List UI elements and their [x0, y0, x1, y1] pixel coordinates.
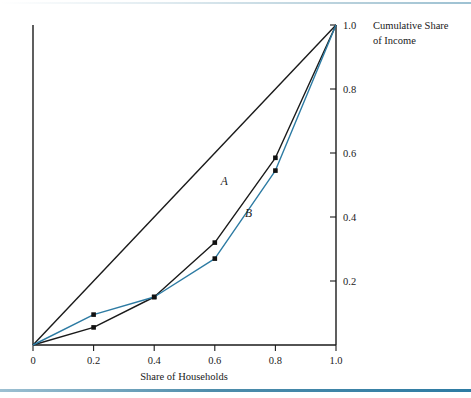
- x-tick-labels: 0 0.2 0.4 0.6 0.8 1.0: [30, 355, 342, 366]
- y-axis-title-line-1: Cumulative Share: [373, 20, 449, 31]
- x-tick-label-5: 1.0: [329, 355, 342, 366]
- y-tick-labels: 0.2 0.4 0.6 0.8 1.0: [343, 20, 357, 287]
- data-point-marker: [213, 256, 218, 261]
- data-point-marker: [152, 295, 157, 300]
- x-tick-label-2: 0.4: [148, 355, 162, 366]
- y-tick-label-1: 0.4: [343, 212, 357, 223]
- y-tick-label-4: 1.0: [343, 20, 356, 31]
- series-line-of-equality: [33, 25, 336, 345]
- x-tick-label-0: 0: [30, 355, 35, 366]
- data-point-marker: [273, 156, 278, 161]
- lorenz-curve-figure: 0 0.2 0.4 0.6 0.8 1.0 0.2 0.4 0.6 0.8 1.…: [0, 0, 471, 398]
- curve-label-b: B: [245, 207, 252, 219]
- data-point-marker: [213, 240, 218, 245]
- x-tick-label-1: 0.2: [87, 355, 100, 366]
- curve-label-a: A: [220, 175, 229, 187]
- data-point-marker: [91, 312, 96, 317]
- x-tick-label-3: 0.6: [208, 355, 221, 366]
- data-point-marker: [91, 325, 96, 330]
- data-point-marker: [273, 168, 278, 173]
- chart-canvas: 0 0.2 0.4 0.6 0.8 1.0 0.2 0.4 0.6 0.8 1.…: [0, 0, 471, 398]
- y-tick-label-2: 0.6: [343, 148, 356, 159]
- series-path-line-of-equality: [33, 25, 336, 345]
- y-tick-label-0: 0.2: [343, 276, 356, 287]
- y-tick-label-3: 0.8: [343, 84, 356, 95]
- y-axis-title: Cumulative Share of Income: [373, 20, 449, 46]
- x-tick-label-4: 0.8: [269, 355, 282, 366]
- y-axis-ticks: [330, 25, 336, 281]
- x-axis-title: Share of Households: [140, 371, 228, 382]
- x-axis-ticks: [33, 345, 336, 351]
- y-axis-title-line-2: of Income: [373, 35, 416, 46]
